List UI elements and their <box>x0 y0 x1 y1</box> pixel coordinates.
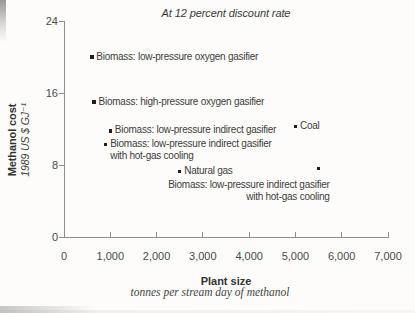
x-tick-mark <box>249 232 250 237</box>
data-point-label: Biomass: low-pressure indirect gasifier <box>115 124 276 137</box>
data-point-label: Biomass: low-pressure indirect gasifierw… <box>168 179 329 204</box>
x-tick-mark <box>341 232 342 237</box>
scan-artifact-top-left <box>0 0 6 42</box>
y-tick-label: 0 <box>52 231 58 244</box>
y-tick-mark <box>59 165 64 166</box>
y-axis-line <box>64 21 65 238</box>
x-axis-line <box>64 237 389 238</box>
chart-title: At 12 percent discount rate <box>64 7 388 19</box>
data-point-label: Coal <box>300 120 320 133</box>
x-tick-label: 2,000 <box>135 250 179 262</box>
data-point-marker <box>104 143 108 147</box>
data-point-label: Biomass: high-pressure oxygen gasifier <box>99 96 265 109</box>
data-point-label-line: Biomass: high-pressure oxygen gasifier <box>99 96 265 109</box>
y-tick-label: 24 <box>46 15 58 28</box>
x-tick-mark <box>295 232 296 237</box>
x-tick-mark <box>110 232 111 237</box>
x-tick-mark <box>156 232 157 237</box>
data-point-marker <box>317 167 321 171</box>
data-point-label-line: Biomass: low-pressure oxygen gasifier <box>96 51 258 64</box>
data-point-label: Biomass: low-pressure oxygen gasifier <box>96 51 258 64</box>
x-tick-mark <box>388 232 389 237</box>
data-point-marker <box>294 125 298 129</box>
x-tick-label: 6,000 <box>320 250 364 262</box>
scanned-chart-figure: At 12 percent discount rate 01,0002,0003… <box>0 0 415 313</box>
y-axis-units-text: 1989 US $ GJ⁻¹ <box>19 85 32 195</box>
data-point-label-line: with hot-gas cooling <box>168 191 329 204</box>
y-tick-label: 16 <box>46 87 58 100</box>
data-point-label-line: Natural gas <box>184 165 232 178</box>
data-point-marker <box>90 55 94 59</box>
y-tick-mark <box>59 21 64 22</box>
y-axis-title-text: Methanol cost <box>6 85 19 195</box>
data-point-marker <box>92 100 96 104</box>
x-axis-units-text: tonnes per stream day of methanol <box>48 286 372 298</box>
data-point-marker <box>109 129 113 133</box>
y-tick-label: 8 <box>52 159 58 172</box>
data-point-label-line: Biomass: low-pressure indirect gasifier <box>168 179 329 192</box>
data-point-marker <box>178 170 182 174</box>
data-point-label-line: with hot-gas cooling <box>110 150 271 163</box>
data-point-label-line: Biomass: low-pressure indirect gasifier <box>115 124 276 137</box>
data-point-label: Natural gas <box>184 165 232 178</box>
x-tick-mark <box>202 232 203 237</box>
data-point-label-line: Biomass: low-pressure indirect gasifier <box>110 138 271 151</box>
x-tick-label: 5,000 <box>273 250 317 262</box>
x-tick-label: 7,000 <box>366 250 410 262</box>
x-tick-label: 1,000 <box>88 250 132 262</box>
data-point-label-line: Coal <box>300 120 320 133</box>
y-axis-title: Methanol cost 1989 US $ GJ⁻¹ <box>6 85 36 195</box>
x-tick-label: 3,000 <box>181 250 225 262</box>
y-tick-mark <box>59 237 64 238</box>
x-tick-label: 0 <box>42 250 86 262</box>
y-tick-mark <box>59 93 64 94</box>
data-point-label: Biomass: low-pressure indirect gasifierw… <box>110 138 271 163</box>
x-tick-label: 4,000 <box>227 250 271 262</box>
